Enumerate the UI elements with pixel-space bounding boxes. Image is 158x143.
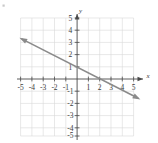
x-tick-label--3: -3 — [40, 83, 46, 92]
y-tick-label--5: -5 — [67, 131, 73, 140]
x-tick-label--4: -4 — [29, 83, 35, 92]
y-tick-label-2: 2 — [68, 50, 72, 59]
y-axis-label: y — [78, 7, 83, 15]
x-axis-label: x — [145, 72, 150, 80]
x-axis: -5 -4 -3 -2 -1 1 2 3 4 5 x — [17, 72, 150, 92]
y-axis-arrowhead-icon — [75, 14, 80, 20]
x-tick-label--5: -5 — [17, 83, 23, 92]
y-axis: 5 4 3 2 1 -1 -2 -3 -4 -5 y — [67, 7, 83, 141]
x-tick-label-2: 2 — [98, 83, 102, 92]
x-tick-label--2: -2 — [51, 83, 57, 92]
y-tick-label--1: -1 — [67, 87, 73, 96]
coordinate-plane-svg: -5 -4 -3 -2 -1 1 2 3 4 5 x — [0, 0, 158, 143]
y-tick-label-3: 3 — [68, 38, 72, 47]
y-tick-label-4: 4 — [68, 26, 72, 35]
coordinate-plane-figure: -5 -4 -3 -2 -1 1 2 3 4 5 x — [0, 0, 158, 143]
x-axis-tick-labels: -5 -4 -3 -2 -1 1 2 3 4 5 — [17, 83, 135, 92]
x-tick-label-1: 1 — [87, 83, 91, 92]
y-axis-tick-labels: 5 4 3 2 1 -1 -2 -3 -4 -5 — [67, 14, 73, 141]
y-tick-label--3: -3 — [67, 111, 73, 120]
corner-artifact-mark — [3, 5, 5, 7]
x-axis-arrowhead-icon — [138, 77, 144, 82]
y-tick-label--2: -2 — [67, 99, 73, 108]
x-tick-label-5: 5 — [132, 83, 136, 92]
y-tick-label-5: 5 — [68, 14, 72, 23]
